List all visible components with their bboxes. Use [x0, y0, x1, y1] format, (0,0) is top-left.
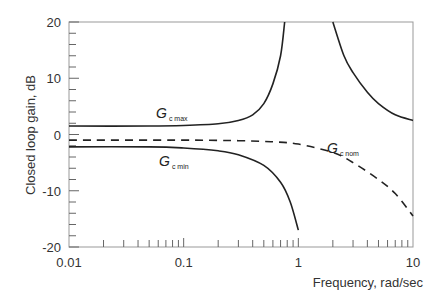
- x-axis: 0.010.1110: [56, 238, 420, 270]
- gc-max-label: Gc max: [156, 105, 188, 122]
- y-tick-label: 20: [47, 15, 61, 30]
- gc-nom-label: Gc nom: [327, 140, 359, 157]
- closed-loop-gain-chart: 20100-10-20 0.010.1110 Gc maxGc nomGc mi…: [0, 0, 445, 306]
- gc-max-curve-branch: [333, 22, 413, 120]
- gc-min-label: Gc min: [159, 153, 189, 170]
- plot-area: [69, 22, 413, 247]
- y-tick-label: 0: [54, 128, 61, 143]
- gc-min-curve: [69, 147, 298, 230]
- y-axis: 20100-10-20: [42, 15, 79, 255]
- y-tick-label: -10: [42, 184, 61, 199]
- gc-nom-curve: [69, 140, 413, 216]
- curve-labels: Gc maxGc nomGc min: [156, 105, 359, 170]
- x-tick-label: 0.1: [175, 255, 193, 270]
- x-axis-title: Frequency, rad/sec: [313, 275, 424, 290]
- y-tick-label: -20: [42, 240, 61, 255]
- x-tick-label: 0.01: [56, 255, 81, 270]
- x-tick-label: 1: [295, 255, 302, 270]
- x-tick-label: 10: [406, 255, 420, 270]
- y-tick-label: 10: [47, 71, 61, 86]
- gc-max-curve: [69, 22, 285, 126]
- plot-frame: [69, 22, 413, 247]
- curves: [69, 22, 413, 230]
- y-axis-title: Closed loop gain, dB: [23, 75, 38, 195]
